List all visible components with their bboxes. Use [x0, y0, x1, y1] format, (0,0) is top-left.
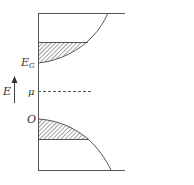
- gap-energy-label: EG: [20, 56, 35, 70]
- upper-band-filled-region: [38, 42, 85, 63]
- band-diagram: E EG μ O: [0, 0, 194, 185]
- energy-axis-label: E: [2, 85, 11, 98]
- gap-energy-main: E: [20, 56, 29, 69]
- origin-label: O: [27, 113, 36, 126]
- energy-arrow-icon: [12, 76, 18, 83]
- gap-energy-subscript: G: [29, 62, 35, 70]
- lower-band-filled-region: [38, 119, 88, 139]
- chemical-potential-label: μ: [28, 86, 35, 97]
